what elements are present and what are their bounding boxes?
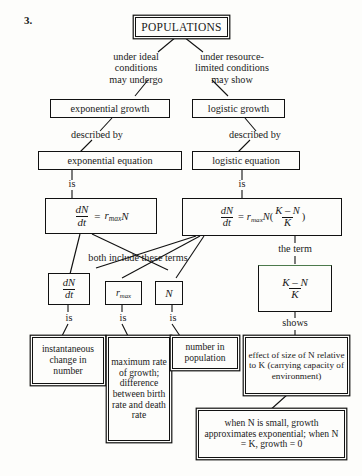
rmax-term: rmax xyxy=(104,209,121,223)
node-exponential-growth: exponential growth xyxy=(50,99,170,118)
node-logistic-equation: logistic equation xyxy=(192,151,300,170)
node-term-dn-dt: dN dt xyxy=(48,273,90,305)
label-right-branch: under resource- limited conditions may s… xyxy=(180,51,284,85)
node-desc-k-minus-n-over-k: effect of size of N relative to K (carry… xyxy=(245,337,348,394)
node-populations: POPULATIONS xyxy=(135,17,228,37)
node-logistic-growth: logistic growth xyxy=(192,99,285,118)
label-the-term: the term xyxy=(262,243,328,254)
node-exponential-equation: exponential equation xyxy=(38,151,182,170)
node-desc-rmax: maximum rate of growth; difference betwe… xyxy=(108,337,170,441)
node-term-n: N xyxy=(155,281,183,305)
n-term: N xyxy=(121,210,128,222)
label-is-rmax: is xyxy=(109,312,137,323)
fraction-dn-dt: dN dt xyxy=(219,206,235,228)
equals-sign: = xyxy=(90,210,104,222)
label-is-dndt: is xyxy=(55,312,83,323)
node-term-k-minus-n-over-k: K – N K xyxy=(258,265,332,312)
node-logistic-formula: dN dt = rmax N ( K – N K ) xyxy=(182,198,342,236)
label-both-include-terms: both include these terms xyxy=(58,252,218,263)
fraction-dn-dt: dN dt xyxy=(73,204,90,227)
label-shows: shows xyxy=(269,317,321,328)
node-desc-small-n: when N is small, growth approximates exp… xyxy=(198,410,345,458)
node-desc-n: number in population xyxy=(172,337,238,369)
label-described-by-right: described by xyxy=(208,129,302,140)
label-described-by-left: described by xyxy=(50,129,144,140)
label-is-left: is xyxy=(58,178,86,189)
node-term-rmax: rmax xyxy=(105,281,142,305)
concept-map-canvas: 3. POPULATIONS under ideal conditions ma… xyxy=(0,0,362,476)
label-is-right: is xyxy=(228,178,256,189)
label-left-branch: under ideal conditions may undergo xyxy=(93,51,179,85)
figure-number: 3. xyxy=(24,14,32,26)
fraction-k-minus-n-over-k: K – N K xyxy=(273,206,302,228)
close-paren: ) xyxy=(302,211,306,223)
equals-sign: = xyxy=(235,211,247,223)
rmax-term: rmax xyxy=(247,211,263,224)
n-term: N xyxy=(263,211,270,223)
node-exponential-formula: dN dt = rmax N xyxy=(45,198,157,234)
node-desc-dndt: instantaneous change in number xyxy=(32,337,104,384)
label-is-n: is xyxy=(159,312,187,323)
